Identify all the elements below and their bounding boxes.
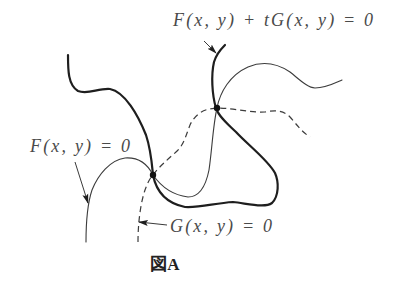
label-g-curve: G(x, y) = 0 [170,216,272,237]
arrow-g-label [139,222,167,225]
figure-caption: 図A [150,255,180,274]
arrow-f-label [75,162,88,203]
intersection-point-upper [214,105,220,111]
arrow-combined-label [204,41,216,53]
label-f-curve: F(x, y) = 0 [29,136,130,157]
label-combined-curve: F(x, y) + tG(x, y) = 0 [172,10,373,31]
intersection-point-lower [150,172,156,178]
curve-f-plus-tg [68,45,278,207]
diagram-figure-a: F(x, y) + tG(x, y) = 0 F(x, y) = 0 G(x, … [0,0,396,290]
